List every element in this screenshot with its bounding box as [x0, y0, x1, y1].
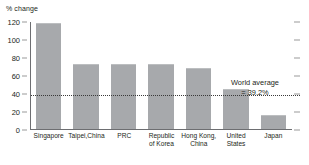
- x-label-taipei-china: Taipei,China: [67, 132, 105, 149]
- y-tick-dash: [22, 94, 27, 95]
- right-tick-0: [294, 130, 300, 131]
- bar-japan: [261, 115, 286, 130]
- x-axis-labels: Singapore Taipei,China PRC Republic of K…: [30, 132, 292, 149]
- y-tick-label: 60: [12, 72, 20, 81]
- y-tick-0: 0: [16, 126, 27, 135]
- right-tick-120: [294, 22, 300, 23]
- bar-slot-singapore: [30, 22, 67, 130]
- x-axis-line: [30, 129, 292, 130]
- y-axis-line: [30, 22, 31, 130]
- y-tick-dash: [22, 22, 27, 23]
- y-tick-dash: [22, 57, 27, 58]
- bar-slot-prc: [105, 22, 142, 130]
- y-tick-100: 100: [7, 36, 27, 45]
- x-label-prc: PRC: [106, 132, 143, 149]
- x-label-hong-kong-china: Hong Kong, China: [180, 132, 217, 149]
- bar-singapore: [36, 23, 61, 130]
- right-tick-80: [294, 57, 300, 58]
- y-tick-40: 40: [12, 90, 27, 99]
- x-label-japan: Japan: [255, 132, 292, 149]
- bar-slot-republic-of-korea: [142, 22, 179, 130]
- y-tick-label: 0: [16, 126, 20, 135]
- bar-slot-hong-kong-china: [180, 22, 217, 130]
- y-tick-120: 120: [7, 18, 27, 27]
- y-tick-20: 20: [12, 107, 27, 116]
- right-tick-20: [294, 111, 300, 112]
- bar-prc: [111, 64, 136, 130]
- right-tick-60: [294, 76, 300, 77]
- bar-series: [30, 22, 292, 130]
- y-tick-label: 80: [12, 53, 20, 62]
- y-tick-dash: [22, 40, 27, 41]
- y-tick-dash: [22, 76, 27, 77]
- x-label-singapore: Singapore: [30, 132, 67, 149]
- y-tick-dash: [22, 130, 27, 131]
- bar-chart: % change 120 100 80 60 40 20 0 World a: [0, 0, 309, 165]
- bar-hong-kong-china: [186, 68, 211, 130]
- y-tick-label: 40: [12, 90, 20, 99]
- plot-area: 120 100 80 60 40 20 0: [30, 22, 292, 130]
- y-tick-label: 20: [12, 107, 20, 116]
- y-tick-label: 100: [7, 36, 20, 45]
- x-label-republic-of-korea: Republic of Korea: [143, 132, 180, 149]
- x-label-united-states: United States: [217, 132, 254, 149]
- bar-taipei-china: [73, 64, 98, 130]
- world-average-annotation: World average = 39.2%: [214, 78, 296, 97]
- bar-republic-of-korea: [148, 64, 173, 130]
- y-tick-label: 120: [7, 18, 20, 27]
- bar-slot-united-states: [217, 22, 254, 130]
- y-axis-title: % change: [6, 5, 38, 12]
- bar-slot-taipei-china: [67, 22, 104, 130]
- y-tick-80: 80: [12, 53, 27, 62]
- bar-slot-japan: [255, 22, 292, 130]
- y-tick-dash: [22, 111, 27, 112]
- right-tick-100: [294, 40, 300, 41]
- y-tick-60: 60: [12, 72, 27, 81]
